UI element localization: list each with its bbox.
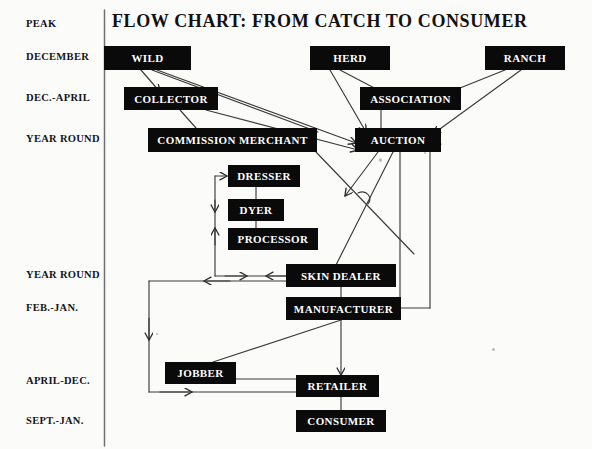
stage-label-dec-april: DEC.-APRIL [26,92,90,103]
node-wild[interactable]: WILD [104,46,191,70]
edge-commission-skindealer [316,152,414,254]
stage-label-feb-jan: FEB.-JAN. [26,302,78,313]
page-title: FLOW CHART: FROM CATCH TO CONSUMER [112,11,528,32]
node-retailer[interactable]: RETAILER [296,375,379,397]
scan-speck-b [424,152,426,154]
node-skin-dealer[interactable]: SKIN DEALER [286,264,396,287]
edge-manufacturer-jobber [213,320,341,362]
node-commission-merchant[interactable]: COMMISSION MERCHANT [148,128,317,152]
node-ranch[interactable]: RANCH [485,46,565,70]
node-association[interactable]: ASSOCIATION [360,87,461,110]
scan-speck-d [492,348,495,351]
stage-label-sept-jan: SEPT.-JAN. [26,415,84,426]
scan-speck-a [379,158,382,162]
node-herd[interactable]: HERD [310,46,390,70]
stage-label-year-round-top: YEAR ROUND [26,133,100,144]
node-consumer[interactable]: CONSUMER [296,410,386,432]
node-collector[interactable]: COLLECTOR [124,87,218,110]
node-jobber[interactable]: JOBBER [165,362,236,384]
edge-collector-commission [180,110,196,128]
edge-auction-left-arrow [345,152,378,196]
node-manufacturer[interactable]: MANUFACTURER [286,297,401,320]
node-auction[interactable]: AUCTION [355,128,441,152]
node-processor[interactable]: PROCESSOR [228,228,318,250]
node-dresser[interactable]: DRESSER [228,165,300,187]
stage-label-peak: PEAK [26,18,56,29]
stage-label-december: DECEMBER [26,51,89,62]
scan-speck-c [156,333,158,335]
flow-chart-page: FLOW CHART: FROM CATCH TO CONSUMER PEAKD… [0,0,592,449]
stage-label-year-round-bottom: YEAR ROUND [26,269,100,280]
node-dyer[interactable]: DYER [228,199,284,221]
edge-auction-skindealer [336,152,393,265]
stage-label-april-dec: APRIL-DEC. [26,375,90,386]
